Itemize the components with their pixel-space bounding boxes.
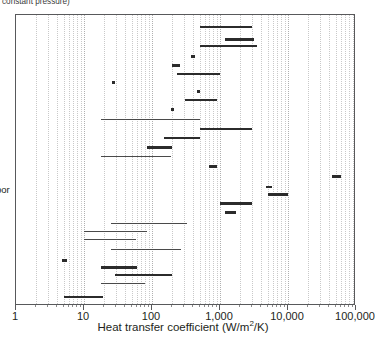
gridline-minor: [116, 15, 118, 304]
data-range-bar: [225, 38, 254, 41]
x-axis-title-tail: /K): [254, 321, 269, 333]
plot-canvas: [16, 15, 354, 304]
x-tick-minor: [171, 305, 172, 307]
data-range-bar: [220, 202, 252, 205]
data-range-bar: [111, 249, 181, 250]
x-tick-minor: [56, 305, 57, 307]
x-tick-minor: [124, 305, 125, 307]
x-tick-minor: [35, 305, 36, 307]
gridline-minor: [149, 15, 151, 304]
gridline-minor: [137, 15, 139, 304]
data-range-bar: [200, 26, 253, 28]
gridline-minor: [125, 15, 127, 304]
gridline-minor: [281, 15, 283, 304]
data-range-bar: [185, 99, 216, 101]
data-range-bar: [84, 239, 136, 240]
data-range-bar: [200, 45, 257, 47]
gridline-minor: [285, 15, 287, 304]
gridline-major: [220, 15, 222, 304]
gridline-minor: [81, 15, 83, 304]
gridline-minor: [217, 15, 219, 304]
x-tick-minor: [208, 305, 209, 307]
x-tick-minor: [284, 305, 285, 307]
x-tick-minor: [199, 305, 200, 307]
x-tick-minor: [251, 305, 252, 307]
x-axis-title-main: Heat transfer coefficient (W/m: [97, 321, 249, 333]
x-tick-minor: [103, 305, 104, 307]
x-tick-minor: [344, 305, 345, 307]
gridline-minor: [341, 15, 343, 304]
gridline-minor: [273, 15, 275, 304]
data-point-marker: [171, 108, 174, 111]
x-tick-minor: [68, 305, 69, 307]
gridline-minor: [308, 15, 310, 304]
data-range-bar: [111, 223, 187, 224]
gridline-minor: [336, 15, 338, 304]
data-range-bar: [209, 165, 216, 168]
gridline-major: [84, 15, 86, 304]
x-tick-minor: [348, 305, 349, 307]
gridline-minor: [353, 15, 354, 304]
gridline-minor: [193, 15, 195, 304]
x-tick-minor: [216, 305, 217, 307]
x-tick-minor: [328, 305, 329, 307]
x-tick-minor: [131, 305, 132, 307]
x-tick-minor: [307, 305, 308, 307]
data-range-bar: [101, 266, 137, 269]
data-range-bar: [200, 128, 253, 130]
data-point-marker: [112, 81, 115, 84]
gridline-minor: [277, 15, 279, 304]
data-range-bar: [332, 175, 341, 178]
x-tick-minor: [183, 305, 184, 307]
x-tick-minor: [192, 305, 193, 307]
gridline-minor: [73, 15, 75, 304]
gridline-minor: [213, 15, 215, 304]
x-tick-minor: [148, 305, 149, 307]
gridline-minor: [36, 15, 38, 304]
x-tick-minor: [280, 305, 281, 307]
data-point-marker: [197, 90, 200, 93]
data-range-bar: [172, 64, 180, 67]
gridline-minor: [200, 15, 202, 304]
gridline-minor: [261, 15, 263, 304]
x-tick-minor: [136, 305, 137, 307]
gridline-minor: [141, 15, 143, 304]
data-range-bar: [266, 186, 272, 188]
plot-area: [15, 14, 355, 305]
gridline-minor: [329, 15, 331, 304]
data-range-bar: [268, 193, 288, 196]
gridline-minor: [209, 15, 211, 304]
gridline-minor: [252, 15, 254, 304]
data-range-bar: [164, 137, 200, 139]
x-tick-minor: [47, 305, 48, 307]
data-range-bar: [147, 146, 172, 149]
data-range-bar: [101, 283, 145, 284]
x-tick-minor: [272, 305, 273, 307]
gridline-minor: [320, 15, 322, 304]
x-tick-minor: [76, 305, 77, 307]
x-tick-minor: [276, 305, 277, 307]
gridline-minor: [57, 15, 59, 304]
gridline-minor: [349, 15, 351, 304]
data-range-bar: [225, 211, 235, 214]
x-tick-minor: [144, 305, 145, 307]
x-tick-minor: [352, 305, 353, 307]
data-range-bar: [115, 274, 171, 276]
gridline-minor: [268, 15, 270, 304]
gridline-minor: [345, 15, 347, 304]
x-tick-minor: [115, 305, 116, 307]
gridline-minor: [132, 15, 134, 304]
x-tick-minor: [204, 305, 205, 307]
gridline-minor: [205, 15, 207, 304]
x-tick-minor: [239, 305, 240, 307]
gridline-minor: [48, 15, 50, 304]
x-tick-minor: [63, 305, 64, 307]
x-tick-minor: [260, 305, 261, 307]
gridline-major: [152, 15, 154, 304]
gridline-minor: [145, 15, 147, 304]
x-tick-minor: [340, 305, 341, 307]
gridline-major: [288, 15, 290, 304]
x-tick-minor: [319, 305, 320, 307]
caption-fragment: constant pressure): [2, 0, 70, 7]
